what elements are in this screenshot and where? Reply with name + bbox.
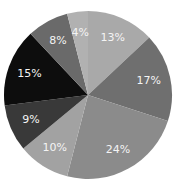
slice-label: 13% [100,31,124,44]
slice-label: 8% [49,34,66,47]
slice-label: 4% [71,26,88,39]
pie-chart: 13%17%24%10%9%15%8%4% [0,0,179,194]
slice-label: 9% [22,113,39,126]
slice-label: 15% [17,67,41,80]
slice-label: 24% [106,143,130,156]
slice-label: 10% [42,141,66,154]
slice-label: 17% [136,74,160,87]
